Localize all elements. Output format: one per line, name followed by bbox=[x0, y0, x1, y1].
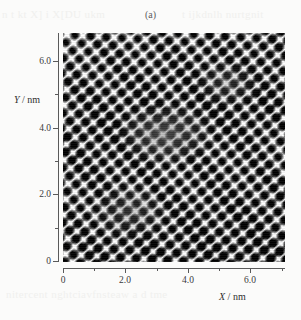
y-axis-tick-label: 6.0 bbox=[39, 56, 51, 66]
y-axis-title-unit: nm bbox=[27, 94, 40, 105]
y-axis-tick-minor bbox=[55, 228, 58, 229]
y-axis-tick-minor bbox=[55, 94, 58, 95]
y-axis-tick-major bbox=[53, 61, 58, 62]
y-axis-tick-label: 4.0 bbox=[39, 123, 51, 133]
x-axis: 0 2.0 4.0 6.0 bbox=[63, 268, 285, 269]
stm-topography-raster bbox=[63, 33, 285, 262]
y-axis-tick-label: 0 bbox=[46, 256, 51, 266]
x-axis-tick-minor bbox=[219, 268, 220, 271]
x-axis-tick-major bbox=[250, 268, 251, 273]
x-axis-tick-label: 2.0 bbox=[119, 275, 131, 285]
figure-page: n t kt X] i X[DU ukm t ijkdnlh nurtgnit … bbox=[0, 0, 301, 320]
x-axis-tick-label: 6.0 bbox=[244, 275, 256, 285]
y-axis-tick-major bbox=[53, 128, 58, 129]
x-axis-tick-minor bbox=[282, 268, 283, 271]
x-axis-tick-major bbox=[125, 268, 126, 273]
x-axis-tick-minor bbox=[94, 268, 95, 271]
x-axis-title-unit: nm bbox=[233, 291, 246, 302]
x-axis-tick-label: 0 bbox=[61, 275, 66, 285]
y-axis: 0 2.0 4.0 6.0 bbox=[58, 33, 59, 262]
x-axis-title: X / nm bbox=[219, 291, 246, 302]
x-axis-tick-major bbox=[63, 268, 64, 273]
x-axis-tick-major bbox=[188, 268, 189, 273]
y-axis-tick-major bbox=[53, 194, 58, 195]
x-axis-tick-label: 4.0 bbox=[182, 275, 194, 285]
y-axis-title: Y / nm bbox=[14, 94, 40, 105]
page-bleedthrough-text: nitercent nghtciavfnsteaw a d tme bbox=[6, 288, 168, 300]
y-axis-tick-minor bbox=[55, 161, 58, 162]
y-axis-tick-major bbox=[53, 261, 58, 262]
panel-label: (a) bbox=[0, 9, 301, 20]
x-axis-title-separator: / bbox=[225, 291, 233, 302]
x-axis-tick-minor bbox=[157, 268, 158, 271]
y-axis-tick-label: 2.0 bbox=[39, 189, 51, 199]
stm-image-plot bbox=[63, 33, 285, 262]
